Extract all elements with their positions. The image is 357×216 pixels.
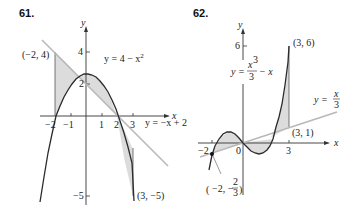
curve-4-minus-x-squared bbox=[40, 74, 134, 202]
x-tick-3-62: 3 bbox=[286, 145, 291, 156]
line-label-61: y = −x + 2 bbox=[145, 117, 187, 128]
curve-label-61: y = 4 − x2 bbox=[104, 52, 144, 64]
point-label-3-neg5: (3, −5) bbox=[137, 190, 164, 202]
x-axis-arrow-icon bbox=[324, 141, 330, 145]
y-axis-label-61: y bbox=[80, 17, 86, 28]
y-tick-2: 2 bbox=[79, 78, 84, 89]
svg-text:3: 3 bbox=[233, 187, 238, 198]
svg-text:y =: y = bbox=[313, 94, 328, 105]
x-tick-2: 2 bbox=[114, 119, 119, 130]
point-label-3-1: (3, 1) bbox=[292, 127, 314, 139]
svg-text:3: 3 bbox=[334, 99, 339, 110]
svg-text:3: 3 bbox=[249, 71, 254, 82]
x-tick-neg2-62: −2 bbox=[198, 145, 209, 156]
y-tick-6: 6 bbox=[235, 40, 240, 51]
point-label-3-6: (3, 6) bbox=[293, 37, 315, 49]
point-label-neg2-neg2thirds: ( −2, − 2 3 ) bbox=[206, 176, 242, 198]
svg-text:(: ( bbox=[206, 184, 210, 196]
leader-line bbox=[213, 156, 221, 174]
figure-canvas: 61. y x 4 2 −5 −2 −1 1 bbox=[0, 0, 357, 216]
x-tick-neg2: −2 bbox=[45, 119, 56, 130]
point-label-neg2-4: (−2, 4) bbox=[22, 49, 49, 61]
svg-text:3: 3 bbox=[253, 54, 258, 65]
x-tick-1: 1 bbox=[99, 119, 104, 130]
x-tick-3: 3 bbox=[130, 119, 135, 130]
problem-number-61: 61. bbox=[19, 7, 34, 19]
y-tick-4: 4 bbox=[78, 46, 83, 57]
svg-text:2: 2 bbox=[233, 176, 238, 187]
svg-text:x: x bbox=[333, 88, 339, 99]
svg-text:y =: y = bbox=[230, 66, 245, 77]
y-axis-label-62: y bbox=[237, 19, 243, 30]
x-tick-neg1: −1 bbox=[63, 119, 74, 130]
plot-61: 61. y x 4 2 −5 −2 −1 1 bbox=[19, 7, 187, 205]
line-label-62: y = x 3 bbox=[313, 88, 340, 110]
y-tick-neg5: −5 bbox=[73, 190, 84, 201]
line-x-over-3 bbox=[200, 112, 337, 157]
point-dot-neg2 bbox=[210, 152, 214, 156]
svg-text:− x: − x bbox=[259, 66, 273, 77]
shaded-region-62-right bbox=[270, 46, 289, 138]
curve-label-62: y = x 3 3 − x bbox=[230, 54, 273, 84]
svg-text:): ) bbox=[239, 184, 242, 196]
problem-number-62: 62. bbox=[193, 7, 208, 19]
x-axis-label-62: x bbox=[333, 137, 339, 148]
svg-text:−2, −: −2, − bbox=[212, 183, 234, 194]
x-tick-0: 0 bbox=[236, 145, 241, 156]
plot-62: 62. y x 6 −2 0 3 (3, 6) (3, 1) bbox=[193, 7, 340, 198]
